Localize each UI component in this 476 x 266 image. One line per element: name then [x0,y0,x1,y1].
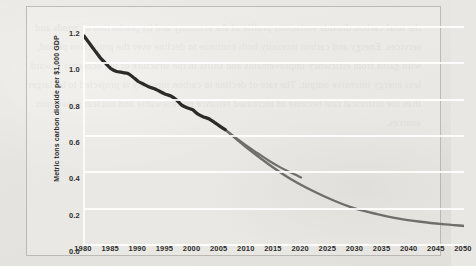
y-axis-tick-label: 0.6 [34,138,80,147]
x-axis-tick-label: 2050 [443,244,476,253]
gridline [84,171,464,173]
x-axis-tick-labels: 1980198519901995200020052010201520202025… [0,244,451,258]
gridline [84,99,464,101]
plot-area [84,27,464,245]
series-line-history [84,36,225,130]
y-axis-tick-label: 0.2 [34,211,80,220]
chart-figure: Metric tons carbon dioxide per $1,000 GD… [26,6,441,256]
y-axis-tick-label: 0.4 [34,174,80,183]
gridline [84,62,464,64]
gridline [84,135,464,137]
gridline [84,26,464,28]
y-axis-tick-label: 1.2 [34,29,80,38]
y-axis-tick-label: 0.8 [34,102,80,111]
gridline [84,208,464,210]
y-axis-tick-label: 1.0 [34,65,80,74]
y-axis-tick-labels: 0.00.20.40.60.81.01.2 [27,7,80,266]
series-line-projection-low [225,130,464,226]
